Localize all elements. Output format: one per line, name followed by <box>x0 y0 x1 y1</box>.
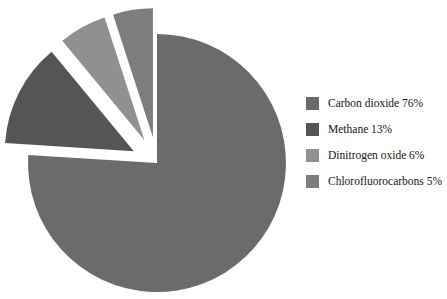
legend-item-label: Chlorofluorocarbons 5% <box>328 175 442 188</box>
legend-item: Carbon dioxide 76% <box>306 90 447 116</box>
legend-item: Chlorofluorocarbons 5% <box>306 168 447 194</box>
legend-swatch-methane <box>306 123 319 136</box>
legend-item: Methane 13% <box>306 116 447 142</box>
legend-swatch-chlorofluorocarbons <box>306 175 319 188</box>
legend-item-label: Carbon dioxide 76% <box>328 97 423 110</box>
legend-swatch-dinitrogen-oxide <box>306 149 319 162</box>
legend-item: Dinitrogen oxide 6% <box>306 142 447 168</box>
legend-swatch-carbon-dioxide <box>306 97 319 110</box>
legend-item-label: Dinitrogen oxide 6% <box>328 149 424 162</box>
legend-item-label: Methane 13% <box>328 123 392 136</box>
pie-slices-group <box>5 8 286 292</box>
chart-legend: Carbon dioxide 76%Methane 13%Dinitrogen … <box>306 90 447 194</box>
pie-chart-figure: Carbon dioxide 76%Methane 13%Dinitrogen … <box>0 0 447 299</box>
